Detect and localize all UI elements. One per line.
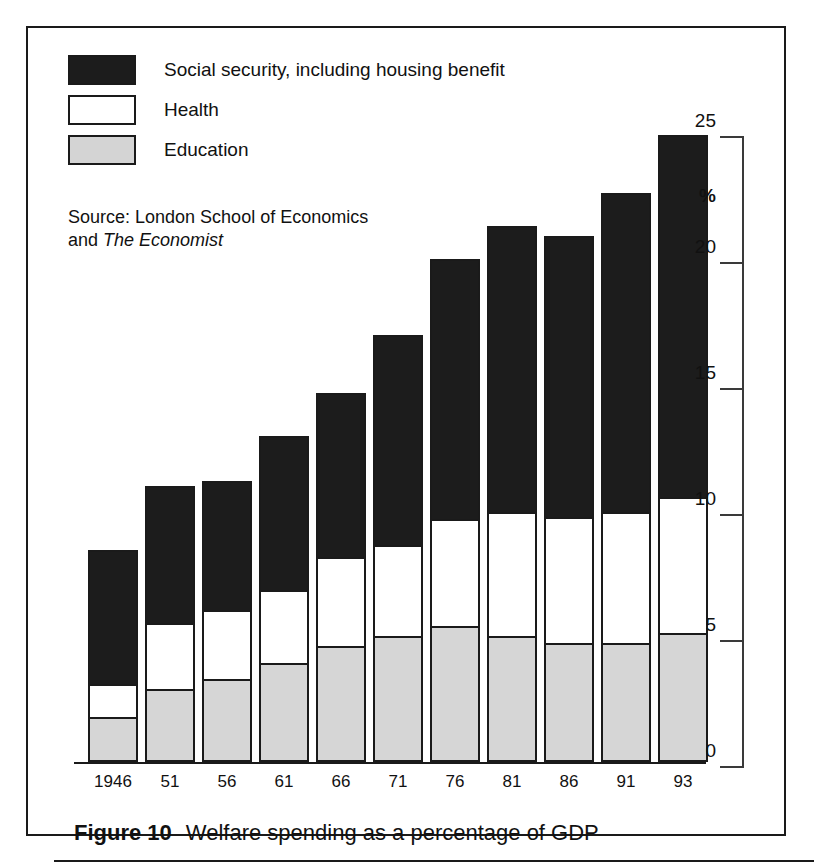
bar-segment-71-social — [373, 335, 423, 545]
bar-segment-61-health — [259, 590, 309, 663]
bar-76 — [430, 259, 480, 762]
figure-caption-text: Welfare spending as a percentage of GDP — [186, 820, 599, 845]
y-tick-5 — [720, 640, 744, 642]
figure-frame: Social security, including housing benef… — [26, 26, 786, 836]
y-tick-label-25: 25 — [676, 110, 716, 132]
bar-86 — [544, 236, 594, 762]
x-axis-label-1946: 1946 — [88, 772, 138, 792]
y-tick-25 — [720, 136, 744, 138]
bar-71 — [373, 335, 423, 762]
bar-segment-81-social — [487, 226, 537, 512]
x-axis-label-91: 91 — [601, 772, 651, 792]
bar-segment-76-education — [430, 626, 480, 763]
y-tick-label-15: 15 — [676, 362, 716, 384]
y-tick-15 — [720, 388, 744, 390]
x-axis-label-81: 81 — [487, 772, 537, 792]
bar-segment-1946-health — [88, 684, 138, 717]
bar-segment-66-health — [316, 557, 366, 645]
bar-1946 — [88, 550, 138, 762]
x-axis-baseline — [74, 762, 706, 764]
x-axis-label-51: 51 — [145, 772, 195, 792]
bar-segment-76-health — [430, 519, 480, 625]
bar-segment-76-social — [430, 259, 480, 519]
figure-page: Social security, including housing benef… — [0, 0, 815, 862]
y-tick-label-5: 5 — [676, 614, 716, 636]
legend-label-social: Social security, including housing benef… — [164, 59, 505, 81]
bar-segment-61-education — [259, 663, 309, 762]
y-tick-label-0: 0 — [676, 740, 716, 762]
y-tick-label-10: 10 — [676, 488, 716, 510]
bar-51 — [145, 486, 195, 762]
y-axis-line — [742, 136, 744, 768]
legend-item-social: Social security, including housing benef… — [68, 50, 628, 90]
bar-segment-93-health — [658, 497, 708, 634]
bar-61 — [259, 436, 309, 762]
bar-segment-56-education — [202, 679, 252, 762]
y-tick-0 — [720, 766, 744, 768]
plot-area: 194651566166717681869193 — [74, 88, 706, 764]
x-axis-label-93: 93 — [658, 772, 708, 792]
x-axis-label-71: 71 — [373, 772, 423, 792]
x-axis-label-86: 86 — [544, 772, 594, 792]
bar-segment-91-education — [601, 643, 651, 762]
x-axis-label-66: 66 — [316, 772, 366, 792]
y-tick-10 — [720, 514, 744, 516]
y-axis-unit-label: % — [676, 185, 716, 207]
bar-93 — [658, 135, 708, 762]
bar-segment-1946-education — [88, 717, 138, 763]
bar-segment-81-education — [487, 636, 537, 762]
bar-segment-71-education — [373, 636, 423, 762]
figure-caption: Figure 10Welfare spending as a percentag… — [74, 820, 599, 846]
y-tick-label-20: 20 — [676, 236, 716, 258]
bar-91 — [601, 193, 651, 762]
bar-segment-56-social — [202, 481, 252, 610]
bar-81 — [487, 226, 537, 762]
legend-swatch-social-icon — [68, 55, 136, 85]
bar-56 — [202, 481, 252, 762]
bar-segment-51-education — [145, 689, 195, 762]
bar-segment-66-social — [316, 393, 366, 557]
x-axis-label-56: 56 — [202, 772, 252, 792]
x-axis-label-61: 61 — [259, 772, 309, 792]
x-axis-label-76: 76 — [430, 772, 480, 792]
bar-segment-91-social — [601, 193, 651, 512]
bar-segment-51-health — [145, 623, 195, 689]
bar-segment-86-social — [544, 236, 594, 517]
bar-segment-81-health — [487, 512, 537, 636]
bar-segment-66-education — [316, 646, 366, 762]
bar-segment-56-health — [202, 610, 252, 678]
bar-segment-86-education — [544, 643, 594, 762]
bar-segment-91-health — [601, 512, 651, 643]
bar-66 — [316, 393, 366, 762]
bar-segment-86-health — [544, 517, 594, 643]
bar-segment-51-social — [145, 486, 195, 623]
y-tick-20 — [720, 262, 744, 264]
bar-segment-61-social — [259, 436, 309, 590]
bar-segment-71-health — [373, 545, 423, 636]
bar-segment-1946-social — [88, 550, 138, 684]
figure-number: Figure 10 — [74, 820, 172, 845]
